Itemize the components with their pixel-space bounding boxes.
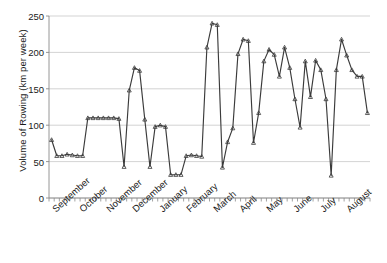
plot-area xyxy=(0,0,387,263)
chart-container: Volume of Rowing (km per week) 250 200 1… xyxy=(0,0,387,263)
gridlines xyxy=(49,16,370,198)
x-axis-ticks xyxy=(49,198,370,202)
y-tick-label-250: 250 xyxy=(18,11,44,22)
data-line-series xyxy=(52,23,368,175)
y-tick-label-150: 150 xyxy=(18,83,44,94)
y-tick-label-200: 200 xyxy=(18,47,44,58)
y-tick-label-100: 100 xyxy=(18,120,44,131)
y-tick-label-50: 50 xyxy=(18,156,44,167)
y-tick-label-0: 0 xyxy=(18,193,44,204)
data-point-markers xyxy=(50,21,370,177)
y-axis-tick-labels: 250 200 150 100 50 0 xyxy=(14,0,44,263)
